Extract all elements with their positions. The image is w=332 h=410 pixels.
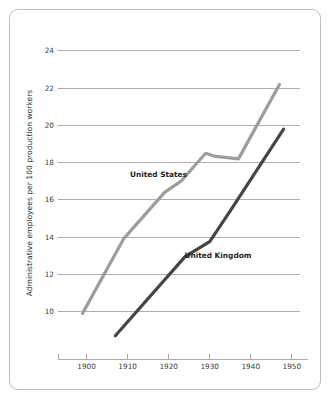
y-tick-label: 20: [45, 121, 55, 130]
y-tick-label: 10: [45, 307, 55, 316]
y-tick-label: 24: [45, 46, 55, 55]
data-series-group: [83, 84, 284, 335]
x-tick-label: 1950: [283, 362, 302, 371]
x-tick-label: 1920: [159, 362, 178, 371]
y-tick-label: 22: [45, 84, 54, 93]
y-tick-labels-group: 1012141618202224: [45, 46, 55, 316]
figure-container: 1012141618202224 19001910192019301940195…: [0, 0, 332, 410]
line-chart: 1012141618202224 19001910192019301940195…: [0, 0, 332, 410]
x-axis-group: [58, 354, 308, 359]
y-tick-label: 16: [45, 195, 55, 204]
series-label-united-kingdom: United Kingdom: [184, 251, 251, 260]
y-axis-title: Administrative employees per 100 product…: [25, 90, 34, 297]
y-tick-label: 12: [45, 270, 54, 279]
x-tick-labels-group: 190019101920193019401950: [77, 362, 301, 371]
x-tick-label: 1940: [241, 362, 260, 371]
x-tick-label: 1930: [200, 362, 219, 371]
plot-area: 1012141618202224 19001910192019301940195…: [0, 0, 332, 410]
x-tick-label: 1900: [77, 362, 96, 371]
series-labels-group: United StatesUnited Kingdom: [130, 170, 252, 261]
y-tick-label: 14: [45, 233, 55, 242]
series-line-united-states: [83, 84, 280, 313]
y-tick-group: [58, 51, 62, 312]
series-label-united-states: United States: [130, 170, 188, 179]
y-tick-label: 18: [45, 158, 55, 167]
x-tick-label: 1910: [118, 362, 137, 371]
